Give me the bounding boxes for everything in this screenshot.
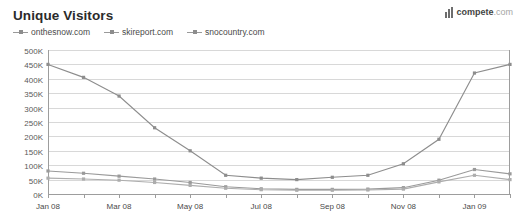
legend-label: onthesnow.com (31, 28, 90, 37)
series-line-1 (48, 170, 510, 190)
x-axis-tick-label: Nov 08 (391, 202, 417, 211)
y-axis-tick-label: 100K (24, 162, 43, 171)
x-axis-tick-label: May 08 (177, 202, 204, 211)
data-point (153, 181, 156, 184)
plot-area: 500K450K400K350K300K250K200K150K100K50K0… (0, 42, 521, 223)
data-point (437, 138, 440, 141)
logo-tld: .com (493, 7, 513, 17)
page-title: Unique Visitors (13, 8, 113, 23)
series-line-2 (48, 175, 510, 190)
logo-brand: compete (456, 7, 493, 17)
x-axis-tick-label: Sep 08 (320, 202, 346, 211)
line-chart-svg: 500K450K400K350K300K250K200K150K100K50K0… (0, 42, 521, 223)
y-axis-tick-label: 250K (24, 119, 43, 128)
data-point (473, 174, 476, 177)
data-point (437, 180, 440, 183)
data-point (260, 177, 263, 180)
x-axis-tick-label: Mar 08 (107, 202, 132, 211)
y-axis-tick-label: 0K (33, 191, 43, 200)
legend-label: skireport.com (122, 28, 173, 37)
data-point (331, 176, 334, 179)
data-point (331, 189, 334, 192)
y-axis-tick-label: 300K (24, 105, 43, 114)
data-point (189, 181, 192, 184)
y-axis-tick-label: 50K (29, 177, 44, 186)
logo-text: compete.com (456, 8, 513, 17)
compete-logo[interactable]: compete.com (445, 7, 513, 18)
data-point (82, 172, 85, 175)
legend-item-onthesnow[interactable]: onthesnow.com (13, 28, 90, 37)
data-point (402, 162, 405, 165)
unique-visitors-chart-widget: Unique Visitors onthesnow.com skireport.… (0, 0, 521, 223)
data-point (366, 188, 369, 191)
legend-marker-icon (104, 29, 119, 36)
data-point (402, 188, 405, 191)
chart-legend: onthesnow.com skireport.com snocountry.c… (13, 28, 264, 37)
data-point (473, 71, 476, 74)
data-point (82, 76, 85, 79)
data-point (153, 177, 156, 180)
data-point (189, 184, 192, 187)
data-point (366, 174, 369, 177)
legend-item-snocountry[interactable]: snocountry.com (187, 28, 264, 37)
chart-header: Unique Visitors onthesnow.com skireport.… (0, 0, 521, 44)
data-point (224, 187, 227, 190)
gridlines (48, 51, 510, 195)
data-point (295, 178, 298, 181)
data-point (117, 94, 120, 97)
data-point (46, 177, 49, 180)
y-axis-tick-label: 450K (24, 61, 43, 70)
x-axis-tick-label: Jul 08 (251, 202, 273, 211)
y-axis-tick-label: 150K (24, 148, 43, 157)
y-axis-tick-label: 350K (24, 90, 43, 99)
y-axis-tick-label: 400K (24, 76, 43, 85)
data-point (82, 177, 85, 180)
data-point (189, 149, 192, 152)
data-point (473, 168, 476, 171)
data-point (117, 175, 120, 178)
data-point (224, 174, 227, 177)
data-point (46, 63, 49, 66)
legend-marker-icon (13, 29, 28, 36)
data-point (153, 126, 156, 129)
data-point (508, 63, 511, 66)
bar-chart-icon (445, 7, 453, 18)
y-axis-tick-label: 200K (24, 133, 43, 142)
y-axis-tick-labels: 500K450K400K350K300K250K200K150K100K50K0… (24, 47, 43, 200)
legend-label: snocountry.com (205, 28, 264, 37)
x-axis-tick-labels: Jan 08Mar 08May 08Jul 08Sep 08Nov 08Jan … (36, 202, 487, 211)
data-point (46, 169, 49, 172)
data-point (117, 179, 120, 182)
data-series-group (46, 63, 511, 192)
data-point (508, 178, 511, 181)
x-axis-tick-label: Jan 08 (36, 202, 61, 211)
data-point (260, 188, 263, 191)
legend-item-skireport[interactable]: skireport.com (104, 28, 173, 37)
y-axis-tick-label: 500K (24, 47, 43, 56)
data-point (508, 172, 511, 175)
data-point (295, 189, 298, 192)
x-axis-tick-label: Jan 09 (462, 202, 487, 211)
legend-marker-icon (187, 29, 202, 36)
